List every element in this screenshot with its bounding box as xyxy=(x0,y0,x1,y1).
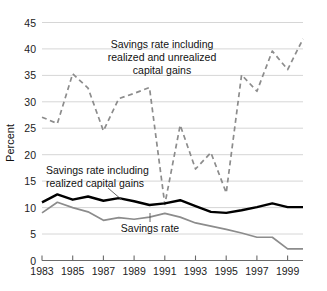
x-tick-label-1999: 1999 xyxy=(276,265,300,277)
annot-realized-line-1: Savings rate including xyxy=(46,164,149,176)
annot-savings-rate: Savings rate xyxy=(121,222,180,234)
y-axis-title: Percent xyxy=(4,124,16,162)
x-tick-label-1987: 1987 xyxy=(92,265,116,277)
x-tick-label-1993: 1993 xyxy=(184,265,208,277)
y-tick-label-10: 10 xyxy=(24,202,36,214)
annot-unrealized-line-2: realized and unrealized xyxy=(108,51,217,63)
annot-savings-rate-line-1: Savings rate xyxy=(121,222,180,234)
x-tick-label-1983: 1983 xyxy=(30,265,54,277)
x-tick-label-1989: 1989 xyxy=(122,265,146,277)
annot-realized: Savings rate including realized capital … xyxy=(46,164,149,189)
x-tick-label-1991: 1991 xyxy=(153,265,177,277)
y-tick-label-25: 25 xyxy=(24,122,36,134)
y-tick-label-30: 30 xyxy=(24,96,36,108)
y-tick-label-20: 20 xyxy=(24,149,36,161)
y-tick-label-15: 15 xyxy=(24,175,36,187)
annot-realized-line-2: realized capital gains xyxy=(46,177,144,189)
annot-unrealized-line-3: capital gains xyxy=(133,64,191,76)
chart-container: 45 40 35 30 25 20 15 10 5 0 1983 1985 19… xyxy=(0,0,327,291)
y-tick-label-45: 45 xyxy=(24,17,36,29)
x-tick-label-1997: 1997 xyxy=(245,265,269,277)
y-tick-label-35: 35 xyxy=(24,69,36,81)
y-tick-label-5: 5 xyxy=(30,228,36,240)
x-tick-label-1995: 1995 xyxy=(215,265,239,277)
annot-unrealized-line-1: Savings rate including xyxy=(111,38,214,50)
savings-rate-line-chart: 45 40 35 30 25 20 15 10 5 0 1983 1985 19… xyxy=(0,0,327,291)
y-tick-label-40: 40 xyxy=(24,43,36,55)
x-tick-labels: 1983 1985 1987 1989 1991 1993 1995 1997 … xyxy=(30,265,299,277)
x-tick-label-1985: 1985 xyxy=(61,265,85,277)
